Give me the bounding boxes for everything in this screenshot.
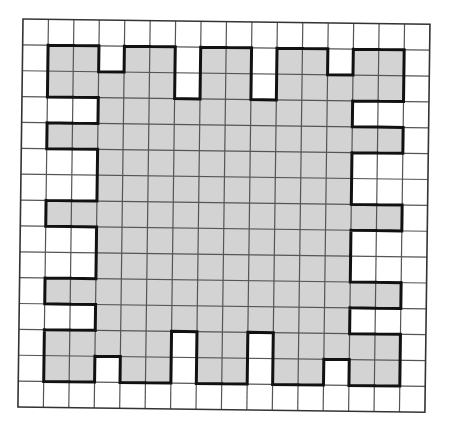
grid-cell-empty xyxy=(323,359,349,386)
grid-cell-filled xyxy=(249,255,275,282)
grid-cell-filled xyxy=(378,50,404,77)
grid-cell-filled xyxy=(197,280,223,307)
grid-cell-empty xyxy=(349,385,375,412)
grid-cell-empty xyxy=(403,127,429,154)
grid-cell-empty xyxy=(352,153,378,180)
grid-cell-empty xyxy=(22,45,48,72)
grid-cell-empty xyxy=(70,252,96,279)
grid-cell-empty xyxy=(99,46,125,73)
grid-cell-filled xyxy=(69,330,95,357)
grid-cell-filled xyxy=(275,152,301,179)
grid-cell-empty xyxy=(402,153,428,180)
grid-cell-filled xyxy=(353,75,379,102)
grid-cell-filled xyxy=(174,124,200,151)
grid-cell-filled xyxy=(327,101,353,128)
grid-cell-filled xyxy=(172,280,198,307)
grid-cell-empty xyxy=(247,384,273,411)
grid-cell-filled xyxy=(224,151,250,178)
grid-cell-empty xyxy=(43,381,69,408)
grid-cell-empty xyxy=(18,355,44,382)
grid-cell-filled xyxy=(123,124,149,151)
grid-cell-empty xyxy=(44,304,70,331)
grid-cell-filled xyxy=(300,204,326,231)
grid-cell-filled xyxy=(122,176,148,203)
grid-cell-filled xyxy=(173,202,199,229)
grid-cell-empty xyxy=(46,149,72,176)
grid-cell-empty xyxy=(21,174,47,201)
grid-cell-empty xyxy=(196,383,222,410)
grid-cell-empty xyxy=(402,179,428,206)
grid-cell-empty xyxy=(399,386,425,413)
grid-cell-empty xyxy=(374,386,400,413)
grid-cell-filled xyxy=(199,151,225,178)
grid-cell-empty xyxy=(21,148,47,175)
grid-cell-empty xyxy=(350,308,376,335)
grid-cell-filled xyxy=(298,333,324,360)
grid-cell-empty xyxy=(45,252,71,279)
grid-cell-filled xyxy=(377,127,403,154)
grid-cell-filled xyxy=(324,308,350,335)
grid-cell-empty xyxy=(175,73,201,100)
grid-cell-filled xyxy=(326,204,352,231)
grid-cell-filled xyxy=(223,229,249,256)
grid-cell-filled xyxy=(149,47,175,74)
grid-cell-filled xyxy=(222,358,248,385)
grid-cell-empty xyxy=(302,23,328,50)
grid-cell-filled xyxy=(378,75,404,102)
grid-cell-empty xyxy=(47,97,73,124)
grid-cell-empty xyxy=(19,304,45,331)
grid-cell-filled xyxy=(273,359,299,386)
grid-cell-filled xyxy=(301,126,327,153)
grid-cell-filled xyxy=(174,99,200,126)
grid-cell-empty xyxy=(352,101,378,128)
grid-cell-filled xyxy=(123,98,149,125)
grid-cell-filled xyxy=(248,307,274,334)
grid-cell-empty xyxy=(404,24,430,51)
grid-cell-empty xyxy=(404,50,430,77)
grid-cell-filled xyxy=(95,305,121,332)
grid-cell-empty xyxy=(400,334,426,361)
grid-cell-filled xyxy=(375,282,401,309)
grid-cell-empty xyxy=(94,382,120,409)
grid-cell-empty xyxy=(404,76,430,103)
grid-cell-filled xyxy=(374,360,400,387)
grid-cell-filled xyxy=(95,330,121,357)
grid-cell-empty xyxy=(20,200,46,227)
grid-cell-empty xyxy=(377,153,403,180)
grid-cell-filled xyxy=(173,228,199,255)
grid-cell-empty xyxy=(72,149,98,176)
grid-cell-filled xyxy=(70,278,96,305)
grid-cell-empty xyxy=(95,356,121,383)
grid-cell-filled xyxy=(73,46,99,73)
grid-cell-filled xyxy=(124,72,150,99)
grid-cell-empty xyxy=(150,21,176,48)
grid-cell-filled xyxy=(276,100,302,127)
grid-cell-filled xyxy=(198,228,224,255)
grid-cell-filled xyxy=(73,71,99,98)
grid-cell-filled xyxy=(146,331,172,358)
grid-cell-filled xyxy=(98,123,124,150)
grid-cell-empty xyxy=(247,358,273,385)
grid-cell-filled xyxy=(98,72,124,99)
grid-cell-empty xyxy=(298,385,324,412)
grid-cell-filled xyxy=(97,175,123,202)
grid-cell-empty xyxy=(401,231,427,258)
grid-cell-empty xyxy=(46,175,72,202)
grid-cell-empty xyxy=(175,21,201,48)
grid-cell-filled xyxy=(376,205,402,232)
grid-cell-filled xyxy=(276,74,302,101)
grid-cell-filled xyxy=(69,356,95,383)
grid-cell-empty xyxy=(376,231,402,258)
grid-cell-filled xyxy=(145,357,171,384)
grid-cell-filled xyxy=(273,333,299,360)
grid-cell-empty xyxy=(20,226,46,253)
grid-cell-empty xyxy=(248,332,274,359)
grid-cell-filled xyxy=(172,254,198,281)
grid-cell-filled xyxy=(299,281,325,308)
grid-cell-filled xyxy=(148,150,174,177)
grid-cell-filled xyxy=(352,127,378,154)
grid-cell-filled xyxy=(149,72,175,99)
grid-cell-empty xyxy=(350,256,376,283)
grid-cell-filled xyxy=(120,357,146,384)
grid-cell-filled xyxy=(324,282,350,309)
